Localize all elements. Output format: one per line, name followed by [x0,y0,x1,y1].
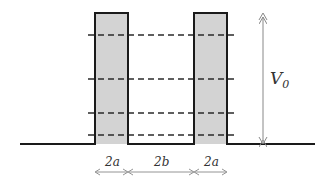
left-width-label: 2a [104,155,120,169]
gap-width-label: 2b [153,155,169,169]
height-label: V0 [270,68,289,91]
width-dimensions [95,169,227,175]
right-width-label: 2a [203,155,219,169]
double-barrier-diagram: V0 2a 2b 2a [0,0,330,185]
